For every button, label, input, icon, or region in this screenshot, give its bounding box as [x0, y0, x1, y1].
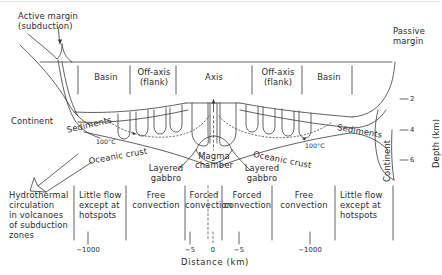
regime-forced-convection-right-line2: convection [224, 201, 270, 211]
x-tick-label-3: ~5 [228, 246, 250, 256]
continent-left-label: Continent [11, 117, 53, 127]
x-tick-label-4: ~1000 [292, 246, 328, 256]
regime-subduction-line5: zones [9, 231, 34, 241]
active-margin-label-line2: (subduction) [18, 22, 73, 32]
layered-gabbro-right-line2: gabbro [238, 174, 286, 184]
continent-right-label: Continent [383, 140, 393, 182]
layered-gabbro-left-line2: gabbro [142, 174, 190, 184]
y-tick-label-1: 4 [410, 126, 414, 136]
regime-little-flow-left-line3: hotspots [79, 211, 116, 221]
x-axis-title: Distance (km) [160, 258, 270, 268]
y-axis-title: Depth (km) [432, 119, 442, 168]
zone-header-off-axis-left-line2: (flank) [131, 78, 177, 88]
x-tick-label-1: ~5 [178, 246, 202, 256]
isotherm-left-label: 100°C [96, 137, 116, 147]
zone-header-basin-right: Basin [306, 73, 352, 83]
passive-margin-label-line2: margin [393, 37, 423, 47]
y-tick-label-0: 2 [410, 95, 414, 105]
regime-free-convection-right-line2: convection [274, 201, 334, 211]
zone-header-off-axis-right-line2: (flank) [254, 78, 302, 88]
y-tick-label-2: 6 [410, 156, 414, 166]
regime-free-convection-left-line2: convection [128, 201, 184, 211]
isotherm-right-label: 100°C [305, 141, 325, 151]
magma-chamber-label-line2: chamber [190, 161, 238, 171]
regime-forced-convection-left-line2: convection [185, 201, 223, 211]
x-tick-label-2: 0 [203, 246, 223, 256]
zone-header-axis: Axis [182, 73, 246, 83]
x-tick-label-0: ~1000 [70, 246, 106, 256]
regime-little-flow-right-line3: hotspots [340, 211, 377, 221]
zone-header-basin-left: Basin [84, 73, 128, 83]
